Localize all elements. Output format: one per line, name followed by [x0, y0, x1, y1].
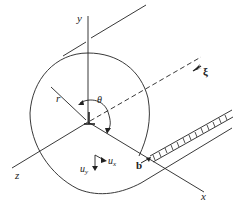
slip-strip-top	[150, 110, 232, 156]
dislocation-diagram: y r θ ξ z x b ux uy	[0, 0, 240, 207]
radius-label: r	[56, 92, 61, 104]
theta-label: θ	[97, 94, 102, 105]
theta-arc	[80, 100, 110, 130]
xi-label: ξ	[203, 65, 208, 78]
burgers-label: b	[136, 159, 142, 171]
cylinder-top-edge-cont	[91, 5, 146, 38]
theta-arrow-start-icon	[78, 100, 84, 105]
z-axis-label: z	[14, 169, 20, 181]
line-direction-dashed	[90, 57, 201, 121]
y-axis-label: y	[76, 12, 82, 24]
uy-arrowhead-icon	[92, 166, 98, 171]
x-axis	[88, 122, 204, 192]
cylinder-bottom-edge	[141, 128, 232, 183]
uy-label: uy	[80, 163, 89, 176]
ux-arrowhead-icon	[101, 157, 107, 163]
cylinder-top-edge	[63, 42, 86, 56]
x-axis-label: x	[200, 190, 206, 202]
z-axis	[12, 122, 88, 168]
ux-label: ux	[108, 155, 117, 168]
slip-strip-bottom	[153, 117, 233, 162]
